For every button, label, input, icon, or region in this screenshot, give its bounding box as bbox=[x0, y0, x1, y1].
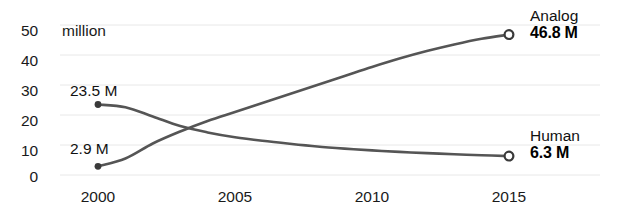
series-line-analog bbox=[98, 35, 509, 167]
x-tick-2005: 2005 bbox=[205, 188, 265, 206]
y-tick-30: 30 bbox=[2, 82, 38, 100]
y-axis-unit-label: million bbox=[62, 22, 106, 40]
x-tick-2000: 2000 bbox=[68, 188, 128, 206]
analog-end-value: 46.8 M bbox=[530, 24, 578, 42]
series-markers bbox=[95, 30, 514, 170]
series-lines bbox=[98, 35, 509, 167]
human-series-name: Human bbox=[530, 128, 580, 144]
x-tick-2015: 2015 bbox=[479, 188, 539, 206]
y-tick-40: 40 bbox=[2, 52, 38, 70]
series-line-human bbox=[98, 105, 509, 157]
analog-series-label: Analog 46.8 M bbox=[530, 8, 578, 43]
gridlines bbox=[60, 25, 600, 175]
analog-start-value-label: 2.9 M bbox=[70, 140, 109, 158]
analog-series-name: Analog bbox=[530, 8, 578, 24]
y-tick-0: 0 bbox=[2, 168, 38, 186]
end-marker-analog bbox=[505, 30, 514, 39]
start-marker-analog bbox=[95, 163, 102, 170]
y-tick-20: 20 bbox=[2, 112, 38, 130]
human-start-value-label: 23.5 M bbox=[70, 82, 117, 100]
line-chart: 50 million 40 30 20 10 0 2000 2005 2010 … bbox=[0, 0, 623, 224]
start-marker-human bbox=[95, 101, 102, 108]
x-tick-2010: 2010 bbox=[342, 188, 402, 206]
human-series-label: Human 6.3 M bbox=[530, 128, 580, 163]
y-tick-50: 50 bbox=[2, 22, 38, 40]
y-tick-10: 10 bbox=[2, 142, 38, 160]
end-marker-human bbox=[505, 152, 514, 161]
human-end-value: 6.3 M bbox=[530, 144, 580, 162]
